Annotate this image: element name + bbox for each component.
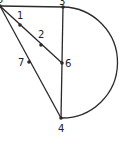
point-label-4: 4	[58, 123, 64, 134]
point-label-3: 3	[59, 0, 65, 7]
point-2	[39, 43, 43, 47]
point-label-1: 1	[17, 10, 23, 21]
point-label-5: 5	[0, 0, 3, 5]
point-7	[27, 60, 31, 64]
point-label-2: 2	[38, 29, 44, 40]
point-6	[60, 61, 64, 65]
point-label-7: 7	[18, 57, 24, 68]
segments	[0, 6, 63, 118]
points	[0, 4, 65, 120]
segment-5-6	[0, 6, 62, 63]
point-label-6: 6	[65, 58, 71, 69]
point-1	[18, 23, 22, 27]
segment-5-3	[0, 6, 63, 7]
geometry-diagram: 5312674	[0, 0, 119, 145]
point-4	[59, 116, 63, 120]
